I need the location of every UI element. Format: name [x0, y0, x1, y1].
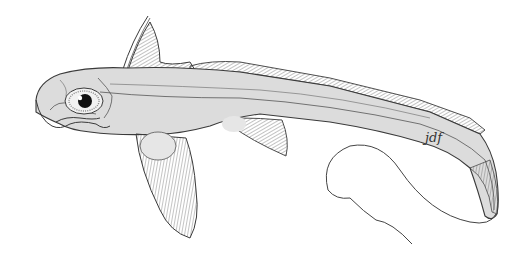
- eye: [65, 88, 103, 114]
- pectoral-fin: [136, 132, 197, 238]
- pelvic-fin-base: [222, 116, 246, 132]
- artist-signature: jdf: [425, 130, 442, 145]
- first-dorsal-fin: [122, 16, 195, 72]
- illustration-canvas: jdf: [0, 0, 530, 261]
- chimaera-fish-drawing: [0, 0, 530, 261]
- pectoral-fin-base: [140, 132, 176, 160]
- pelvic-fin: [222, 116, 287, 156]
